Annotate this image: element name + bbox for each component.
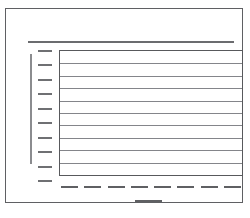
y-tick-label-placeholder	[38, 79, 52, 81]
x-axis-title-placeholder	[135, 200, 162, 202]
gridline-horizontal	[60, 138, 242, 139]
y-tick-label-placeholder	[38, 122, 52, 124]
y-tick-label-placeholder	[38, 108, 52, 110]
x-tick-label-placeholder	[108, 186, 125, 188]
plot-area	[59, 50, 243, 176]
gridline-horizontal	[60, 150, 242, 151]
x-axis-tick-labels	[59, 186, 243, 190]
x-tick-label-placeholder	[131, 186, 148, 188]
y-tick-label-placeholder	[38, 166, 52, 168]
gridline-horizontal	[60, 113, 242, 114]
chart-title-placeholder	[28, 41, 234, 43]
figure-frame	[5, 8, 243, 203]
chart-skeleton-page	[0, 0, 250, 218]
y-tick-label-placeholder	[38, 180, 52, 182]
x-tick-label-placeholder	[84, 186, 101, 188]
gridline-horizontal	[60, 125, 242, 126]
gridline-horizontal	[60, 163, 242, 164]
gridline-horizontal	[60, 76, 242, 77]
y-tick-label-placeholder	[38, 93, 52, 95]
x-tick-label-placeholder	[154, 186, 171, 188]
y-axis-title-placeholder	[30, 54, 32, 164]
y-tick-label-placeholder	[38, 64, 52, 66]
gridline-horizontal	[60, 63, 242, 64]
y-tick-label-placeholder	[38, 137, 52, 139]
y-axis-tick-labels	[38, 50, 54, 182]
x-tick-label-placeholder	[61, 186, 78, 188]
x-tick-label-placeholder	[224, 186, 241, 188]
gridline-horizontal	[60, 101, 242, 102]
x-tick-label-placeholder	[177, 186, 194, 188]
x-tick-label-placeholder	[201, 186, 218, 188]
y-tick-label-placeholder	[38, 151, 52, 153]
y-tick-label-placeholder	[38, 50, 52, 52]
gridline-horizontal	[60, 88, 242, 89]
